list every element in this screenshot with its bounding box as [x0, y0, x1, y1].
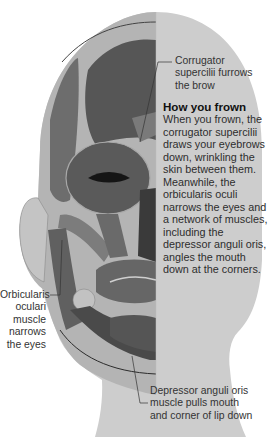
info-body: When you frown, the corrugator supercili… — [163, 113, 271, 276]
orbicularis-label: Orbicularis oculari muscle narrows the e… — [0, 289, 46, 351]
info-block: How you frown When you frown, the corrug… — [163, 100, 271, 276]
corrugator-label: Corrugator supercilii furrows the brow — [175, 55, 252, 92]
orbicularis-oris-muscle — [96, 260, 156, 304]
info-heading: How you frown — [163, 100, 271, 113]
ear — [20, 198, 48, 282]
nasalis-muscle — [138, 188, 156, 262]
depressor-label: Depressor anguli oris muscle pulls mouth… — [150, 385, 252, 422]
